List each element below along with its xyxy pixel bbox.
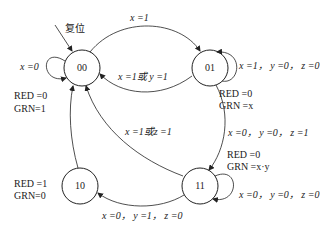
state-00-output-red: RED =0 — [14, 90, 47, 102]
state-10-label: 10 — [62, 180, 98, 192]
transition-00-01 — [90, 26, 200, 52]
reset-label: 复位 — [65, 23, 85, 35]
transition-11-self-label: x =0， y =0， z =0 — [239, 189, 320, 201]
state-01-output-grn: GRN =x — [219, 100, 253, 112]
state-11-output-red: RED =0 — [227, 149, 260, 161]
transition-11-00-label: x =1或z =1 — [125, 126, 172, 138]
state-01-label: 01 — [192, 62, 228, 74]
transition-01-11-label: x =0， y =0， z =1 — [228, 127, 309, 139]
state-00-output-grn: GRN=1 — [14, 103, 46, 115]
state-11-output-grn: GRN =x·y — [227, 161, 270, 173]
transition-10-00 — [70, 86, 78, 168]
state-11-label: 11 — [182, 180, 218, 192]
state-10-output-red: RED =1 — [14, 178, 47, 190]
transition-11-10 — [98, 193, 184, 206]
state-00-label: 00 — [64, 62, 100, 74]
transition-00-01-label: x =1 — [130, 12, 149, 24]
transition-11-10-label: x =0， y =1， z =0 — [102, 210, 183, 222]
transition-00-self-label: x =0 — [20, 61, 39, 73]
transition-01-self-label: x =1， y =0， z =0 — [239, 60, 320, 72]
transition-01-00-label: x =1或 y =1 — [118, 71, 168, 83]
state-10-output-grn: GRN=0 — [14, 190, 46, 202]
state-01-output-red: RED =0 — [219, 88, 252, 100]
